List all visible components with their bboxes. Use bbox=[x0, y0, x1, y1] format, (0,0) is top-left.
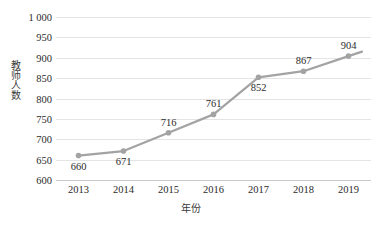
data-point-marker bbox=[76, 153, 82, 159]
data-point-label: 904 bbox=[341, 40, 357, 51]
data-point-label: 761 bbox=[206, 98, 222, 109]
x-axis-tick-label: 2014 bbox=[113, 184, 134, 195]
y-axis-tick-label: 850 bbox=[18, 73, 52, 84]
data-point-marker bbox=[121, 148, 127, 154]
data-point-label: 867 bbox=[296, 55, 312, 66]
x-axis-tick-label: 2016 bbox=[203, 184, 224, 195]
data-point-marker bbox=[256, 75, 262, 81]
data-point-marker bbox=[346, 53, 352, 59]
data-point-label: 660 bbox=[71, 161, 87, 172]
x-axis-title: 年份 bbox=[0, 200, 382, 215]
y-axis-tick-label: 1 000 bbox=[18, 12, 52, 23]
y-axis-tick-label: 700 bbox=[18, 134, 52, 145]
x-axis-tick-label: 2019 bbox=[338, 184, 359, 195]
x-axis-line bbox=[56, 180, 371, 181]
x-axis-tick-label: 2013 bbox=[68, 184, 89, 195]
line-chart: 教师人数 6006507007508008509009501 000 66067… bbox=[0, 0, 382, 231]
data-point-marker bbox=[301, 68, 307, 74]
y-axis-tick-label: 800 bbox=[18, 93, 52, 104]
y-axis-tick-label: 950 bbox=[18, 32, 52, 43]
y-axis-tick-label: 900 bbox=[18, 52, 52, 63]
x-axis-tick-label: 2018 bbox=[293, 184, 314, 195]
data-point-label: 716 bbox=[161, 117, 177, 128]
y-axis-tick-labels: 6006507007508008509009501 000 bbox=[18, 0, 52, 231]
y-axis-tick-label: 600 bbox=[18, 175, 52, 186]
x-axis-tick-labels: 2013201420152016201720182019 bbox=[56, 184, 371, 200]
y-axis-tick-label: 650 bbox=[18, 154, 52, 165]
y-axis-tick-label: 750 bbox=[18, 113, 52, 124]
data-point-label: 852 bbox=[251, 82, 267, 93]
x-axis-tick-label: 2015 bbox=[158, 184, 179, 195]
x-axis-tick-label: 2017 bbox=[248, 184, 269, 195]
data-point-marker bbox=[166, 130, 172, 136]
data-point-label: 671 bbox=[116, 156, 132, 167]
data-point-marker bbox=[211, 112, 217, 118]
